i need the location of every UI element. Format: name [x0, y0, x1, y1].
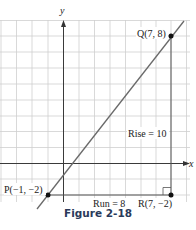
y-axis-arrow-icon — [61, 20, 66, 27]
grid — [0, 20, 190, 202]
x-axis-label: x — [188, 158, 194, 169]
coordinate-plane: y x Q(7, 8) P(−1, −2) R(7, −2) Rise = 10… — [0, 0, 196, 230]
point-q-label: Q(7, 8) — [137, 28, 166, 40]
point-p — [46, 193, 51, 198]
line-pq — [37, 21, 184, 209]
point-r — [169, 193, 174, 198]
point-q — [169, 34, 174, 39]
y-axis-label: y — [59, 5, 65, 16]
axes — [0, 25, 186, 202]
point-p-label: P(−1, −2) — [4, 184, 43, 196]
rise-label: Rise = 10 — [128, 128, 166, 139]
figure-caption: Figure 2-18 — [0, 207, 196, 219]
